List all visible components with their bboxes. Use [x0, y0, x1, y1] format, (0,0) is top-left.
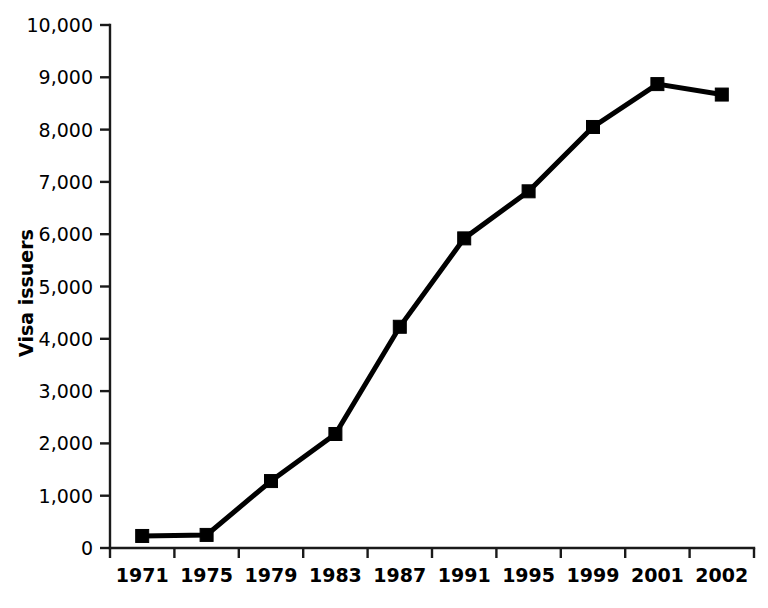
- data-point-marker: [200, 528, 213, 541]
- data-point-marker: [522, 185, 535, 198]
- visa-issuers-line-chart: 01,0002,0003,0004,0005,0006,0007,0008,00…: [0, 0, 768, 608]
- chart-background: [0, 0, 768, 608]
- y-axis-title: Visa issuers: [15, 229, 37, 357]
- data-point-marker: [651, 78, 664, 91]
- y-tick-label: 8,000: [39, 119, 93, 141]
- data-point-marker: [265, 475, 278, 488]
- x-tick-label: 1983: [309, 564, 362, 586]
- x-tick-label: 1975: [180, 564, 233, 586]
- data-point-marker: [587, 120, 600, 133]
- x-tick-label: 1999: [567, 564, 620, 586]
- y-tick-label: 6,000: [39, 223, 93, 245]
- y-tick-label: 9,000: [39, 66, 93, 88]
- y-tick-label: 10,000: [27, 14, 93, 36]
- y-tick-label: 1,000: [39, 485, 93, 507]
- y-tick-label: 2,000: [39, 432, 93, 454]
- y-tick-label: 7,000: [39, 171, 93, 193]
- data-point-marker: [458, 232, 471, 245]
- x-tick-label: 1987: [373, 564, 426, 586]
- data-point-marker: [329, 427, 342, 440]
- x-tick-label: 1995: [502, 564, 555, 586]
- x-tick-label: 1979: [245, 564, 298, 586]
- data-point-marker: [393, 320, 406, 333]
- data-point-marker: [715, 88, 728, 101]
- x-tick-label: 1971: [116, 564, 169, 586]
- x-tick-label: 1991: [438, 564, 491, 586]
- x-tick-label: 2001: [631, 564, 684, 586]
- data-point-marker: [136, 529, 149, 542]
- x-tick-label: 2002: [695, 564, 748, 586]
- y-tick-label: 5,000: [39, 276, 93, 298]
- y-tick-label: 0: [81, 537, 93, 559]
- y-tick-label: 3,000: [39, 380, 93, 402]
- chart-container: 01,0002,0003,0004,0005,0006,0007,0008,00…: [0, 0, 768, 608]
- y-tick-label: 4,000: [39, 328, 93, 350]
